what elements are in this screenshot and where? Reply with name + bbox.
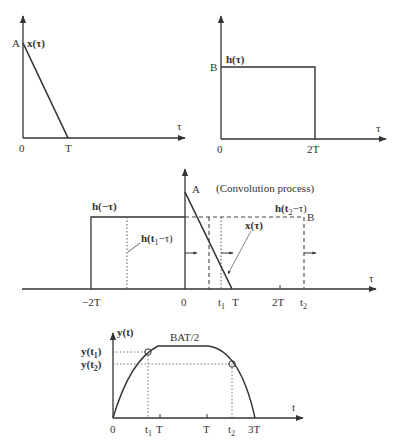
h-t1-pointer: [128, 243, 140, 252]
output-plot: y(t) BAT/2 y(t1) y(t2) t 0 t1 T T t2 3T: [81, 326, 303, 438]
amplitude-label: B: [210, 61, 217, 73]
amplitude-A: A: [192, 183, 200, 195]
h-signal-plot: B h(τ) 0 2T τ: [210, 16, 386, 155]
convolution-process-plot: A (Convolution process) B h(−τ) h(t1−τ) …: [22, 169, 376, 311]
output-curve: [113, 346, 255, 418]
tick-neg2T: −2T: [82, 296, 101, 308]
amplitude-label: A: [12, 37, 20, 49]
tick-3T: 3T: [248, 423, 261, 435]
x-signal-plot: A x(τ) 0 T τ: [12, 16, 185, 154]
tick-2T: 2T: [307, 143, 320, 155]
axis-label: τ: [376, 122, 381, 134]
h-flipped-label: h(−τ): [92, 200, 117, 213]
h-flipped-rect: [91, 217, 185, 289]
triangle-ramp: [23, 43, 68, 138]
origin-label: 0: [217, 143, 223, 155]
tick-T: T: [65, 142, 72, 154]
axis-label: τ: [369, 272, 374, 284]
tick-t1: t1: [218, 296, 225, 311]
function-label: x(τ): [27, 37, 45, 50]
tick-t2: t2: [228, 423, 235, 438]
axis-label: τ: [177, 120, 182, 132]
function-label: y(t): [117, 326, 134, 339]
amplitude-B: B: [307, 211, 314, 223]
y-t2-label: y(t2): [81, 358, 102, 373]
tick-zero: 0: [181, 296, 187, 308]
function-label: h(τ): [226, 53, 245, 66]
h-t2-label: h(t2−τ): [275, 202, 307, 217]
tick-zero: 0: [110, 423, 116, 435]
tick-t1: t1: [145, 423, 152, 438]
convolution-diagram: A x(τ) 0 T τ B h(τ) 0 2T τ: [0, 0, 399, 446]
axis-label: t: [292, 401, 295, 413]
tick-T2: T: [203, 423, 210, 435]
h-t1-label: h(t1−τ): [141, 232, 173, 247]
x-label: x(τ): [245, 219, 263, 232]
rect-pulse: [221, 67, 315, 139]
title: (Convolution process): [216, 182, 314, 195]
peak-label: BAT/2: [170, 331, 199, 343]
origin-label: 0: [19, 142, 25, 154]
tick-T1: T: [156, 423, 163, 435]
tick-T: T: [232, 296, 239, 308]
tick-2T: 2T: [272, 296, 285, 308]
tick-t2: t2: [300, 296, 307, 311]
